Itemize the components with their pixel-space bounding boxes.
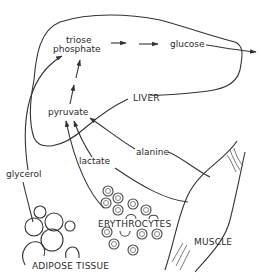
label-glycerol: glycerol bbox=[6, 169, 42, 179]
label-adipose-tissue: ADIPOSE TISSUE bbox=[32, 261, 109, 271]
arrow-pyruvate-to-triose-1 bbox=[70, 85, 74, 104]
arrow-lactate-to-pyruvate-2 bbox=[74, 121, 92, 157]
line-glycerol-from-adipose bbox=[23, 182, 33, 222]
arrow-alanine-to-pyruvate bbox=[90, 118, 135, 149]
muscle-outline bbox=[165, 141, 245, 272]
label-erythrocytes: ERYTHROCYTES bbox=[98, 219, 171, 229]
label-alanine: alanine bbox=[136, 147, 169, 157]
label-phosphate: phosphate bbox=[53, 44, 101, 54]
label-muscle: MUSCLE bbox=[194, 237, 232, 247]
liver-outline bbox=[30, 15, 242, 138]
label-glucose: glucose bbox=[170, 39, 205, 49]
gluconeogenesis-diagram: triose phosphate glucose pyruvate LIVER … bbox=[0, 0, 262, 280]
label-liver: LIVER bbox=[133, 93, 160, 103]
arrow-pyruvate-to-triose-2 bbox=[76, 60, 80, 78]
label-pyruvate: pyruvate bbox=[48, 107, 89, 117]
label-lactate: lactate bbox=[79, 156, 111, 166]
line-lactate-from-muscle bbox=[115, 168, 188, 202]
arrow-glucose-exit bbox=[206, 45, 256, 52]
